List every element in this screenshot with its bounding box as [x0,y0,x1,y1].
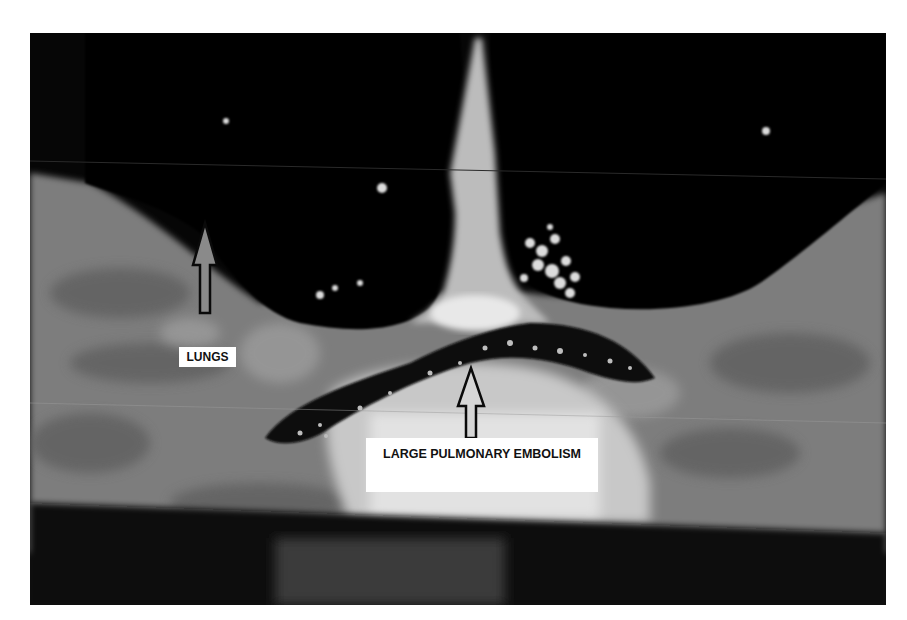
pulmonary-embolism-label: LARGE PULMONARY EMBOLISM [366,438,598,492]
ct-scan-image [30,33,886,605]
lungs-label: LUNGS [179,347,236,367]
ct-scan-graphic [30,33,886,605]
